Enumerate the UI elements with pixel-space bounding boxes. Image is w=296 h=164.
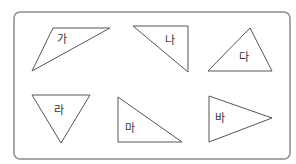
triangle-label: 다: [239, 51, 249, 64]
triangle-label: 나: [165, 34, 175, 47]
triangle-label: 바: [215, 112, 225, 125]
triangle-label: 마: [125, 122, 135, 135]
triangle-label: 라: [54, 104, 64, 117]
triangle-label: 가: [57, 33, 67, 46]
triangle-diagram: 가 나 다 라 마 바: [0, 0, 296, 164]
